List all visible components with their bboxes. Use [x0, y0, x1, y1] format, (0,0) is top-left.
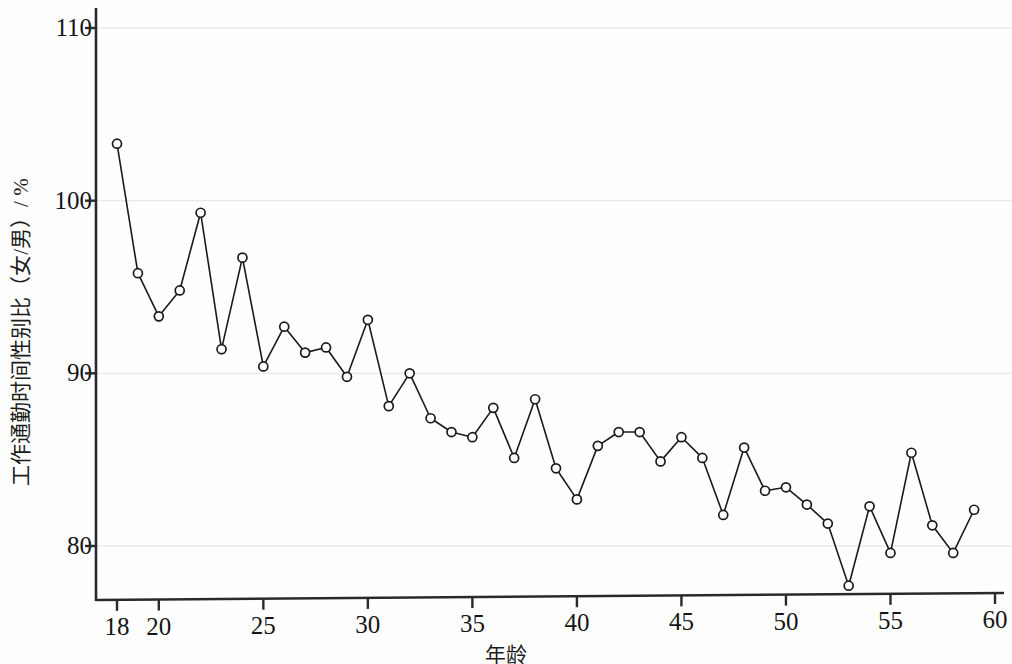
x-axis-tick-labels: 18202530354045505560 — [0, 0, 1012, 664]
x-tick-label: 40 — [564, 610, 589, 635]
x-tick-label: 18 — [105, 614, 130, 639]
x-tick-label: 25 — [251, 613, 276, 638]
chart-figure: 工作通勤时间性别比（女/男）/ % 8090100110 18202530354… — [0, 0, 1012, 664]
x-tick-label: 50 — [773, 609, 798, 634]
x-tick-label: 20 — [146, 614, 171, 639]
x-tick-label: 55 — [878, 608, 903, 633]
x-tick-label: 60 — [983, 607, 1008, 632]
x-tick-label: 35 — [460, 611, 485, 636]
x-tick-label: 45 — [669, 609, 694, 634]
x-axis-title: 年龄 — [0, 638, 1012, 664]
x-tick-label: 30 — [355, 612, 380, 637]
